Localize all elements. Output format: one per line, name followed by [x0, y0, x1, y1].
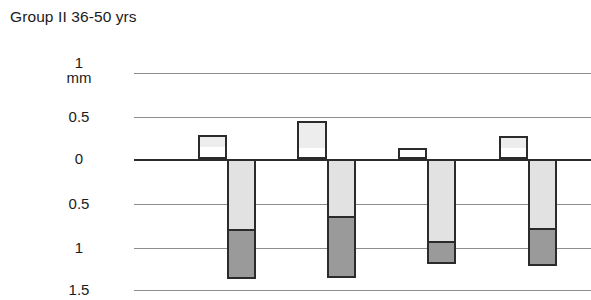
negative-bar-2 [327, 159, 356, 278]
negative-bar-1 [227, 159, 256, 279]
negative-bar-3 [427, 159, 456, 264]
y-axis-labels: 1mm0.500.511.5 [0, 55, 128, 300]
y-tick-value: 1.5 [30, 282, 128, 297]
y-tick-value: 0 [30, 151, 128, 166]
positive-lower-segment-4 [501, 148, 526, 157]
gridline-3 [134, 204, 591, 205]
positive-lower-segment-1 [200, 147, 225, 157]
negative-upper-segment-1 [229, 161, 254, 233]
negative-upper-segment-3 [429, 161, 454, 245]
positive-bar-2 [297, 121, 327, 159]
y-tick-0: 1mm [8, 55, 128, 85]
plot-area [134, 55, 591, 300]
negative-lower-segment-2 [329, 216, 354, 276]
positive-bar-3 [398, 148, 427, 159]
positive-lower-segment-2 [299, 148, 325, 157]
y-tick-1: 0.5 [8, 109, 128, 124]
positive-bar-4 [499, 136, 528, 159]
y-tick-value: 0.5 [30, 196, 128, 211]
chart-title: Group II 36-50 yrs [10, 8, 137, 26]
y-tick-value: 1 [30, 55, 128, 70]
zero-axis-line [134, 159, 591, 161]
y-axis-unit: mm [30, 70, 128, 85]
positive-bar-1 [198, 135, 227, 159]
negative-lower-segment-1 [229, 229, 254, 277]
negative-upper-segment-4 [530, 161, 555, 232]
y-tick-2: 0 [8, 151, 128, 166]
gridline-1 [134, 117, 591, 118]
negative-upper-segment-2 [329, 161, 354, 220]
gridline-0 [134, 73, 591, 74]
negative-bar-4 [528, 159, 557, 266]
gridline-4 [134, 248, 591, 249]
y-tick-value: 0.5 [30, 109, 128, 124]
y-tick-4: 1 [8, 240, 128, 255]
y-tick-value: 1 [30, 240, 128, 255]
y-tick-3: 0.5 [8, 196, 128, 211]
negative-lower-segment-3 [429, 241, 454, 262]
negative-lower-segment-4 [530, 228, 555, 264]
y-tick-5: 1.5 [8, 282, 128, 297]
gridline-5 [134, 290, 591, 291]
chart-root: Group II 36-50 yrs 1mm0.500.511.5 [0, 0, 591, 300]
